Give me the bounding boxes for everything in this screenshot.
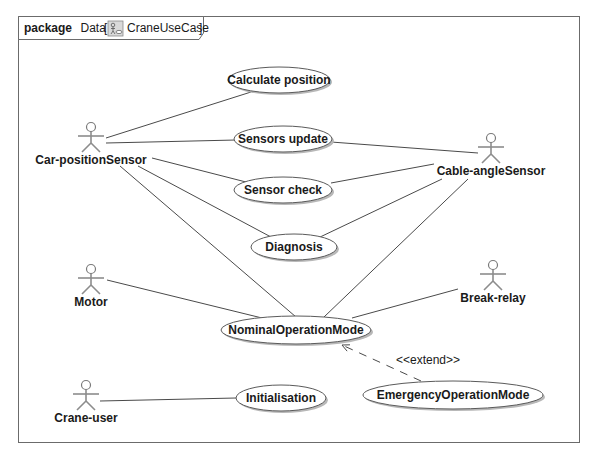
actor-motor[interactable]: Motor (74, 265, 108, 310)
association-line[interactable] (138, 166, 271, 237)
association-line[interactable] (331, 164, 434, 183)
actor-stick-figure-icon[interactable] (478, 134, 504, 164)
actor-stick-figure-icon[interactable] (480, 261, 506, 291)
actor-car-position-sensor[interactable]: Car-positionSensor (35, 123, 147, 168)
actor-crane-user[interactable]: Crane-user (54, 381, 118, 426)
actor-label: Crane-user (54, 411, 118, 425)
extend-relationship: <<extend>> (342, 345, 460, 381)
actor-label: Break-relay (460, 291, 526, 305)
use-case-label: Sensors update (238, 132, 328, 146)
association-line[interactable] (106, 140, 236, 143)
association-line[interactable] (352, 289, 458, 318)
extend-stereotype-label: <<extend>> (396, 353, 460, 367)
frame-diagram-name: CraneUseCase (127, 21, 209, 35)
actors: Car-positionSensorCable-angleSensorMotor… (35, 123, 545, 426)
actor-stick-figure-icon[interactable] (78, 265, 104, 295)
association-line[interactable] (331, 142, 478, 153)
use-case-nominal-operation-mode[interactable]: NominalOperationMode (221, 316, 373, 346)
use-case-diagram-icon (108, 21, 123, 36)
frame-bracket-close: ] (199, 21, 202, 35)
use-case-calculate-position[interactable]: Calculate position (227, 67, 332, 95)
use-case-label: Calculate position (227, 73, 330, 87)
use-case-label: Sensor check (244, 183, 322, 197)
use-cases: Calculate positionSensors updateSensor c… (221, 67, 545, 413)
use-case-emergency-operation-mode[interactable]: EmergencyOperationMode (363, 381, 545, 411)
use-case-label: NominalOperationMode (228, 323, 364, 337)
association-line[interactable] (106, 92, 251, 138)
actor-break-relay[interactable]: Break-relay (460, 261, 526, 306)
use-case-sensor-check[interactable]: Sensor check (234, 177, 334, 205)
association-line[interactable] (107, 280, 262, 318)
actor-stick-figure-icon[interactable] (73, 381, 99, 411)
actor-stick-figure-icon[interactable] (78, 123, 104, 153)
use-case-diagram: package Data [ CraneUseCase ] <<extend>>… (0, 0, 593, 461)
frame-header: package Data (24, 18, 106, 35)
use-case-diagnosis[interactable]: Diagnosis (251, 234, 339, 262)
association-line[interactable] (324, 179, 468, 317)
use-case-sensors-update[interactable]: Sensors update (234, 126, 334, 154)
actor-label: Motor (74, 295, 108, 309)
frame-package-name: Data (80, 21, 106, 35)
actor-cable-angle-sensor[interactable]: Cable-angleSensor (437, 134, 546, 179)
use-case-label: Initialisation (246, 391, 316, 405)
use-case-initialisation[interactable]: Initialisation (236, 385, 328, 413)
use-case-label: Diagnosis (265, 240, 323, 254)
association-line[interactable] (100, 398, 236, 401)
actor-label: Car-positionSensor (35, 153, 147, 167)
actor-label: Cable-angleSensor (437, 164, 546, 178)
use-case-label: EmergencyOperationMode (377, 388, 530, 402)
frame-keyword: package (24, 21, 72, 35)
association-line[interactable] (152, 158, 246, 182)
association-line[interactable] (318, 179, 442, 238)
